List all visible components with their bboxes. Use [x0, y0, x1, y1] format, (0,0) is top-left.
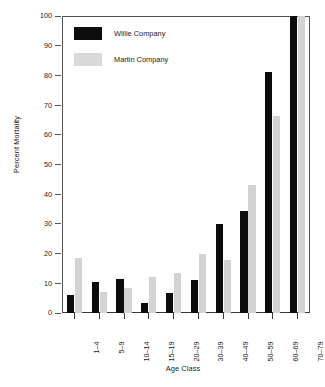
bar-willie-company-1–4 — [67, 295, 74, 313]
mortality-bar-chart: Percent Mortality 0102030405060708090100… — [0, 0, 325, 387]
legend-swatch-willie — [74, 27, 102, 40]
x-axis-title: Age Class — [62, 364, 304, 373]
x-tick-mark — [148, 313, 149, 319]
y-tick-label: 30 — [20, 219, 52, 228]
x-tick-mark — [297, 313, 298, 319]
y-tick-label: 60 — [20, 130, 52, 139]
legend-label-willie: Willie Company — [114, 27, 165, 40]
bar-martin-company-60–69 — [273, 116, 280, 314]
x-tick-mark — [272, 313, 273, 319]
y-tick-label: 40 — [20, 190, 52, 199]
y-tick-mark — [55, 313, 61, 314]
x-tick-mark — [74, 313, 75, 319]
y-tick-label: 90 — [20, 41, 52, 50]
bar-willie-company-10–14 — [116, 279, 123, 313]
y-tick-mark — [55, 75, 61, 76]
x-tick-mark — [99, 313, 100, 319]
bar-martin-company-30–39 — [199, 254, 206, 313]
bar-willie-company-20–29 — [166, 293, 173, 313]
legend-swatch-martin — [74, 53, 102, 66]
x-tick-mark — [198, 313, 199, 319]
legend-label-martin: Martin Company — [114, 53, 168, 66]
bar-martin-company-70–79 — [298, 16, 305, 313]
bar-martin-company-50–59 — [248, 185, 255, 313]
y-tick-label: 50 — [20, 160, 52, 169]
bar-martin-company-5–9 — [100, 292, 107, 313]
x-tick-mark — [223, 313, 224, 319]
y-axis-title: Percent Mortality — [12, 100, 21, 190]
bar-willie-company-5–9 — [92, 282, 99, 313]
bar-willie-company-40–49 — [216, 224, 223, 313]
x-tick-mark — [124, 313, 125, 319]
y-tick-mark — [55, 45, 61, 46]
bar-martin-company-1–4 — [75, 258, 82, 313]
y-tick-label: 80 — [20, 71, 52, 80]
y-tick-label: 20 — [20, 249, 52, 258]
bar-martin-company-20–29 — [174, 273, 181, 313]
x-tick-mark — [173, 313, 174, 319]
bar-martin-company-10–14 — [124, 288, 131, 313]
y-tick-label: 0 — [20, 308, 52, 317]
y-tick-label: 70 — [20, 101, 52, 110]
bar-willie-company-60–69 — [265, 72, 272, 313]
bar-willie-company-30–39 — [191, 280, 198, 313]
x-tick-mark — [248, 313, 249, 319]
bar-willie-company-15–19 — [141, 303, 148, 313]
y-tick-mark — [55, 164, 61, 165]
y-tick-label: 100 — [20, 11, 52, 20]
y-tick-mark — [55, 283, 61, 284]
y-tick-mark — [55, 134, 61, 135]
bar-willie-company-50–59 — [240, 211, 247, 313]
y-tick-mark — [55, 105, 61, 106]
y-tick-mark — [55, 223, 61, 224]
y-tick-mark — [55, 194, 61, 195]
x-tick-label: 70–79 — [315, 342, 324, 386]
bar-willie-company-70–79 — [290, 16, 297, 313]
y-tick-mark — [55, 16, 61, 17]
bar-martin-company-40–49 — [224, 260, 231, 313]
bar-martin-company-15–19 — [149, 277, 156, 313]
y-tick-mark — [55, 253, 61, 254]
y-tick-label: 10 — [20, 279, 52, 288]
